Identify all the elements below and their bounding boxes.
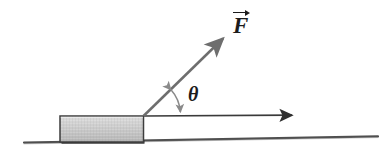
block: [60, 116, 145, 144]
diagram-canvas: [0, 0, 390, 160]
horizontal-displacement-arrow: [143, 115, 292, 116]
angle-arc: [171, 90, 181, 113]
angle-label-theta: θ: [188, 84, 198, 104]
force-vector-label: F: [232, 8, 250, 37]
physics-diagram-figure: F θ: [0, 0, 390, 160]
force-vector-F: [144, 39, 224, 117]
vector-arrow-accent-icon: [233, 8, 250, 15]
force-symbol: F: [232, 14, 250, 37]
